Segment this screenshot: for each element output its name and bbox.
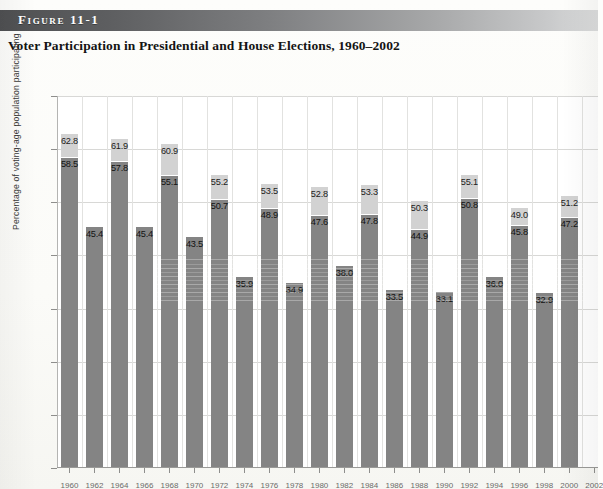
x-tick-mark	[269, 468, 270, 473]
x-axis-label: 1990	[435, 481, 453, 489]
bar-presidential: 53.347.8	[361, 96, 378, 468]
bar-value-label-presidential: 53.5	[261, 186, 278, 196]
bar-presidential: 60.955.1	[161, 96, 178, 468]
x-axis-line	[57, 467, 598, 468]
bar-value-label-house: 34.9	[286, 285, 303, 295]
x-tick-mark	[344, 468, 345, 473]
x-axis-label: 1988	[410, 481, 428, 489]
bar-value-label-house: 47.8	[361, 216, 378, 226]
bar-segment-house	[136, 227, 153, 468]
x-tick-mark	[394, 468, 395, 473]
bar-value-label-house: 45.4	[86, 229, 103, 239]
x-tick-mark	[244, 468, 245, 473]
x-tick-mark	[369, 468, 370, 473]
bar-segment-divider	[111, 161, 128, 162]
x-axis-label: 2002	[585, 481, 603, 489]
bar-segment-house	[236, 277, 253, 468]
bar-midterm: 34.9	[286, 96, 303, 468]
y-tick-mark	[51, 255, 57, 256]
y-tick-mark	[51, 468, 57, 469]
bar-segment-house	[161, 175, 178, 468]
column-separator	[282, 96, 283, 468]
x-tick-mark	[169, 468, 170, 473]
x-axis-label: 1970	[186, 481, 204, 489]
column-separator	[582, 96, 583, 468]
column-separator	[482, 96, 483, 468]
bar-midterm: 36.0	[486, 96, 503, 468]
bar-midterm: 32.9	[536, 96, 553, 468]
y-tick-mark	[51, 415, 57, 416]
column-separator	[132, 96, 133, 468]
bar-segment-divider	[61, 157, 78, 158]
scan-artifact-line	[157, 296, 588, 297]
bar-value-label-presidential: 50.3	[411, 203, 428, 213]
y-tick-mark	[51, 202, 57, 203]
bar-value-label-house: 58.5	[61, 159, 78, 169]
column-separator	[107, 96, 108, 468]
column-separator	[307, 96, 308, 468]
bar-midterm: 43.5	[186, 96, 203, 468]
bar-presidential: 62.858.5	[61, 96, 78, 468]
column-separator	[532, 96, 533, 468]
y-tick-mark	[51, 309, 57, 310]
column-separator	[432, 96, 433, 468]
x-tick-mark	[319, 468, 320, 473]
scan-artifact-line	[157, 264, 588, 265]
bar-value-label-presidential: 55.1	[461, 177, 478, 187]
bar-presidential: 50.344.9	[411, 96, 428, 468]
bar-segment-divider	[511, 225, 528, 226]
bar-value-label-house: 48.9	[261, 210, 278, 220]
bar-value-label-house: 47.6	[311, 217, 328, 227]
bar-segment-divider	[411, 229, 428, 230]
x-tick-mark	[569, 468, 570, 473]
y-tick-mark	[51, 362, 57, 363]
x-tick-mark	[144, 468, 145, 473]
x-axis-label: 1984	[360, 481, 378, 489]
scan-artifact-line	[157, 276, 588, 277]
bar-midterm: 35.9	[236, 96, 253, 468]
x-axis-label: 1974	[236, 481, 254, 489]
column-separator	[407, 96, 408, 468]
scan-artifact-line	[157, 268, 588, 269]
chart-plot-area: 62.858.545.461.957.845.460.955.143.555.2…	[57, 96, 598, 468]
bar-presidential: 51.247.2	[561, 96, 578, 468]
bar-segment-house	[211, 199, 228, 468]
bar-value-label-presidential: 62.8	[61, 136, 78, 146]
bar-value-label-presidential: 53.3	[361, 187, 378, 197]
x-axis-label: 1968	[161, 481, 179, 489]
x-tick-mark	[294, 468, 295, 473]
scan-artifact-line	[157, 292, 588, 293]
x-axis-label: 2000	[560, 481, 578, 489]
bar-segment-house	[536, 293, 553, 468]
bar-segment-divider	[561, 217, 578, 218]
column-separator	[207, 96, 208, 468]
bar-midterm: 33.1	[436, 96, 453, 468]
bar-segment-house	[511, 225, 528, 468]
column-separator	[157, 96, 158, 468]
bar-value-label-presidential: 60.9	[161, 146, 178, 156]
bar-value-label-house: 43.5	[186, 239, 203, 249]
bar-segment-house	[486, 277, 503, 468]
x-tick-mark	[94, 468, 95, 473]
bar-segment-house	[561, 217, 578, 468]
bar-segment-house	[86, 227, 103, 468]
scan-artifact-line	[157, 300, 588, 301]
bar-segment-house	[311, 215, 328, 468]
x-axis-label: 1964	[111, 481, 129, 489]
bar-presidential: 53.548.9	[261, 96, 278, 468]
bar-presidential: 55.150.8	[461, 96, 478, 468]
column-separator	[182, 96, 183, 468]
scan-artifact-line	[157, 280, 588, 281]
bar-segment-house	[361, 214, 378, 468]
x-axis-label: 1994	[485, 481, 503, 489]
bar-segment-house	[61, 157, 78, 468]
bar-value-label-house: 50.7	[211, 201, 228, 211]
x-axis-label: 1978	[285, 481, 303, 489]
figure-number-label: Figure 11-1	[18, 12, 99, 28]
x-tick-mark	[419, 468, 420, 473]
column-separator	[332, 96, 333, 468]
column-separator	[357, 96, 358, 468]
x-tick-mark	[594, 468, 595, 473]
bar-value-label-presidential: 55.2	[211, 177, 228, 187]
